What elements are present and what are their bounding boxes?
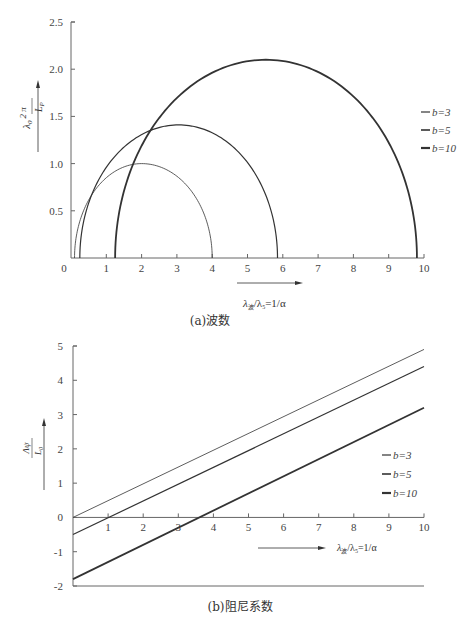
x-tick-label: 2: [140, 521, 146, 533]
series-line-b-5: [73, 367, 424, 535]
x-tick-label: 1: [104, 262, 110, 274]
legend-label: b=10: [393, 487, 417, 499]
x-tick-label: 7: [315, 262, 321, 274]
x-tick-label: 4: [211, 521, 217, 533]
chart-b-damping: 12345678910-2-1012345 b=3b=5b=10 Λψ L0 λ…: [21, 340, 430, 614]
chart-b-legend: b=3b=5b=10: [382, 449, 417, 499]
y-tick-label: 3: [58, 409, 64, 421]
series-curve-b-10: [115, 60, 417, 258]
x-tick-label: 7: [316, 521, 322, 533]
x-tick-label: 8: [351, 521, 357, 533]
chart-a-wavenumber: 0123456789100.51.01.52.02.5 b=3b=5b=10 λ…: [18, 16, 456, 328]
chart-a-caption: (a)波数: [190, 313, 231, 328]
x-tick-label: 10: [419, 262, 431, 274]
series-curve-b-5: [80, 125, 278, 258]
legend-label: b=5: [393, 468, 412, 480]
series-curve-b-3: [75, 164, 213, 258]
y-tick-label: 1: [58, 477, 64, 489]
x-tick-label: 1: [105, 521, 111, 533]
legend-label: b=10: [432, 142, 456, 154]
chart-b-xlabel: λ波/λ5=1/α: [336, 542, 377, 555]
x-tick-label: 4: [209, 262, 215, 274]
y-tick-label: -1: [54, 546, 63, 558]
legend-label: b=5: [432, 124, 451, 136]
x-tick-label: 9: [386, 262, 392, 274]
x-tick-label: 3: [174, 262, 180, 274]
y-tick-label: 2: [58, 443, 64, 455]
y-tick-label: 5: [58, 340, 64, 352]
chart-a-xlabel: λ波/λ5=1/α: [242, 297, 286, 311]
x-tick-label: 2: [139, 262, 145, 274]
svg-text:λ02 π: λ02 π: [18, 107, 34, 130]
chart-b-axes: 12345678910-2-1012345: [54, 340, 430, 592]
legend-label: b=3: [432, 106, 451, 118]
y-tick-label: 2.5: [49, 16, 63, 28]
chart-a-axes: 0123456789100.51.01.52.02.5: [49, 16, 430, 274]
chart-a-y-arrow-icon: [36, 80, 40, 152]
svg-text:LP: LP: [33, 101, 46, 113]
x-tick-label: 0: [61, 262, 67, 274]
chart-a-ylabel: λ02 π LP: [18, 98, 46, 130]
chart-a-x-arrow-icon: [237, 281, 303, 285]
y-tick-label: 2.0: [49, 63, 63, 75]
chart-a-series: [75, 60, 417, 258]
y-tick-label: 1.0: [49, 158, 63, 170]
x-tick-label: 5: [245, 262, 251, 274]
x-tick-label: 9: [386, 521, 392, 533]
y-tick-label: 0.5: [49, 205, 63, 217]
legend-label: b=3: [393, 449, 412, 461]
x-tick-label: 10: [419, 521, 431, 533]
chart-a-legend: b=3b=5b=10: [421, 106, 456, 154]
y-tick-label: 4: [58, 374, 64, 386]
x-tick-label: 5: [246, 521, 252, 533]
chart-b-ylabel: Λψ L0: [21, 438, 44, 458]
x-tick-label: 6: [281, 521, 287, 533]
y-tick-label: -2: [54, 580, 63, 592]
x-tick-label: 8: [351, 262, 357, 274]
x-tick-label: 6: [280, 262, 286, 274]
chart-b-x-arrow-icon: [258, 546, 326, 550]
svg-text:L0: L0: [33, 447, 44, 456]
y-tick-label: 0: [58, 511, 64, 523]
y-tick-label: 1.5: [49, 110, 63, 122]
figure-canvas: 0123456789100.51.01.52.02.5 b=3b=5b=10 λ…: [0, 0, 462, 621]
svg-text:Λψ: Λψ: [21, 442, 31, 454]
chart-b-caption: (b)阻尼系数: [207, 599, 272, 614]
